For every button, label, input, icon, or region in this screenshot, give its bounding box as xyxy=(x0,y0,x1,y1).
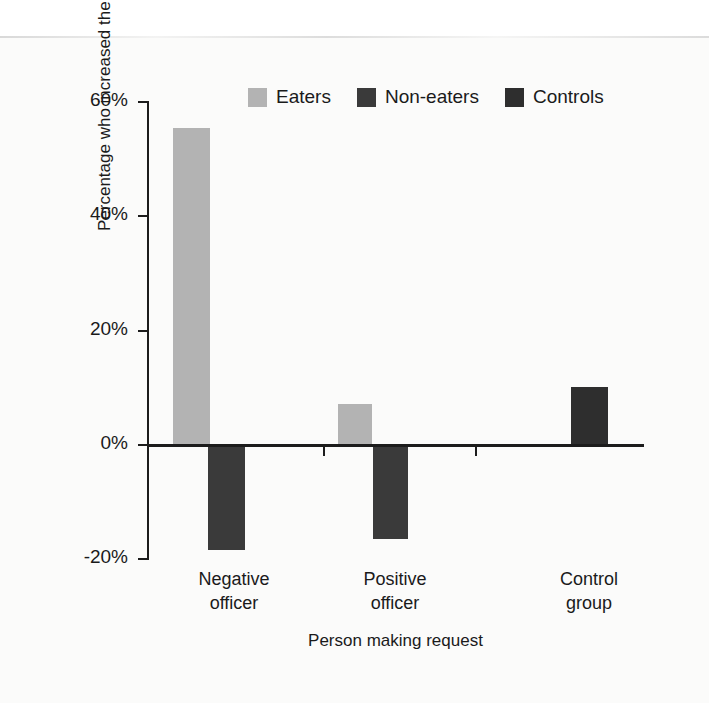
y-tick-20: 20% xyxy=(138,330,148,332)
bar-chart-figure: Eaters Non-eaters Controls 60% 40% 20% 0… xyxy=(0,0,709,703)
bar-positive-officer-non-eaters xyxy=(373,447,408,539)
x-tick-group-boundary-1 xyxy=(323,445,325,456)
y-tick-40: 40% xyxy=(138,215,148,217)
bar-negative-officer-eaters xyxy=(173,128,210,444)
x-category-label-control-group: Control group xyxy=(514,567,664,615)
x-category-label-negative-officer: Negative officer xyxy=(159,567,309,615)
x-tick-group-boundary-2 xyxy=(475,445,477,456)
plot-area: 60% 40% 20% 0% -20% Percentage who incre… xyxy=(147,101,644,560)
x-category-line1-negative: Negative xyxy=(159,567,309,591)
bar-negative-officer-non-eaters xyxy=(208,447,245,550)
x-category-label-positive-officer: Positive officer xyxy=(320,567,470,615)
y-tick-minus-20: -20% xyxy=(138,558,148,560)
x-axis-title: Person making request xyxy=(147,631,644,651)
y-tick-label-minus-20: -20% xyxy=(84,546,128,568)
bar-control-group-controls xyxy=(571,387,608,444)
x-category-line1-control: Control xyxy=(514,567,664,591)
y-tick-label-0: 0% xyxy=(101,432,128,454)
y-tick-0: 0% xyxy=(138,444,148,446)
x-category-line2-negative: officer xyxy=(159,591,309,615)
bar-positive-officer-eaters xyxy=(338,404,372,444)
y-axis-title: Percentage who increased their liking xyxy=(95,0,115,231)
y-tick-label-20: 20% xyxy=(90,318,128,340)
x-category-line2-positive: officer xyxy=(320,591,470,615)
x-category-line2-control: group xyxy=(514,591,664,615)
y-tick-60: 60% xyxy=(138,101,148,103)
x-category-line1-positive: Positive xyxy=(320,567,470,591)
